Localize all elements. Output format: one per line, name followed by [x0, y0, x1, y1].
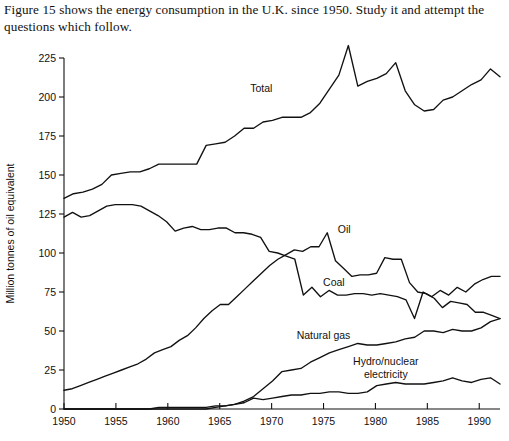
x-tick-label: 1950 [52, 415, 76, 427]
y-tick-label: 100 [38, 247, 56, 259]
series-label-coal: Coal [323, 276, 345, 288]
energy-consumption-chart: 0255075100125150175200225 19501955196019… [0, 40, 509, 441]
y-tick-label: 225 [38, 52, 56, 64]
y-tick-label: 25 [44, 364, 56, 376]
y-tick-label: 150 [38, 169, 56, 181]
y-tick-label: 175 [38, 130, 56, 142]
x-tick-label: 1985 [416, 415, 440, 427]
series-label-hydro-nuclear-line1: Hydro/nuclear [353, 355, 419, 367]
y-tick-label: 0 [50, 403, 56, 415]
series-label-oil: Oil [338, 223, 351, 235]
x-tick-label: 1955 [104, 415, 128, 427]
x-tick-label: 1965 [208, 415, 232, 427]
figure-page: Figure 15 shows the energy consumption i… [0, 0, 509, 441]
x-tick-label: 1970 [260, 415, 284, 427]
y-tick-label: 125 [38, 208, 56, 220]
y-tick-label: 200 [38, 91, 56, 103]
series-line-oil [64, 233, 500, 391]
x-tick-label: 1990 [468, 415, 492, 427]
chart-canvas: 0255075100125150175200225 19501955196019… [0, 40, 509, 441]
y-axis: 0255075100125150175200225 [38, 52, 64, 415]
series-line-coal [64, 205, 500, 319]
series-labels: TotalCoalOilNatural gasHydro/nuclearelec… [250, 82, 419, 380]
x-axis: 195019551960196519701975198019851990 [52, 403, 500, 427]
series-line-natural-gas [64, 319, 500, 409]
y-tick-label: 50 [44, 325, 56, 337]
x-tick-label: 1975 [312, 415, 336, 427]
x-tick-label: 1960 [156, 415, 180, 427]
series-label-natural-gas: Natural gas [297, 329, 351, 341]
series-label-total: Total [250, 82, 272, 94]
series-line-total [64, 46, 500, 199]
series-label-hydro-nuclear-line2: electricity [364, 368, 409, 380]
x-tick-label: 1980 [364, 415, 388, 427]
series-group [64, 46, 500, 409]
figure-caption: Figure 15 shows the energy consumption i… [4, 2, 504, 35]
y-tick-label: 75 [44, 286, 56, 298]
y-axis-title: Million tonnes of oil equivalent [4, 163, 16, 303]
y-axis-title-text: Million tonnes of oil equivalent [4, 163, 16, 303]
series-line-hydro-nuclear-electricity [64, 378, 500, 409]
